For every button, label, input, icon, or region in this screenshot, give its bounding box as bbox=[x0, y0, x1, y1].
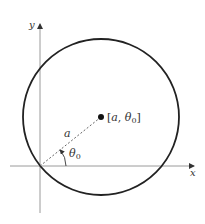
polar-circle-diagram: [a, θ0] a θ0 x y bbox=[0, 0, 205, 224]
center-point-label: [a, θ0] bbox=[107, 111, 141, 125]
radius-label: a bbox=[64, 127, 71, 140]
x-axis-label: x bbox=[190, 167, 196, 178]
angle-label: θ0 bbox=[69, 147, 81, 161]
y-axis-label: y bbox=[28, 19, 35, 30]
angle-arc bbox=[60, 150, 66, 166]
center-point bbox=[98, 114, 104, 120]
